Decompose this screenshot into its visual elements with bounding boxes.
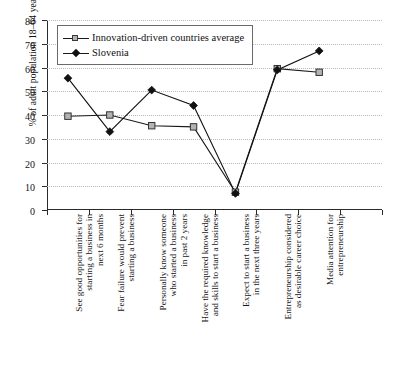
plot-area: 01020304050607080 Innovation-driven coun…	[47, 20, 382, 210]
legend-item-slovenia: Slovenia	[63, 45, 244, 60]
x-axis-tick	[382, 210, 383, 215]
y-axis-tick-label: 70	[25, 39, 35, 50]
data-point-square	[316, 69, 322, 75]
y-axis-tick-label: 40	[25, 111, 35, 122]
legend: Innovation-driven countries average Slov…	[57, 25, 253, 65]
series-line-slovenia	[68, 51, 319, 194]
x-axis-category-label: Have the required knowledgeand skills to…	[200, 214, 214, 364]
x-axis-category-labels: See good opportunities forstarting a bus…	[47, 214, 382, 379]
y-axis-tick-label: 30	[25, 134, 35, 145]
data-point-square	[107, 112, 113, 118]
legend-label: Innovation-driven countries average	[92, 32, 244, 43]
x-axis-category-label: Media attention forentrepreneurship	[325, 214, 339, 364]
data-point-square	[65, 113, 71, 119]
x-axis-category-label: Fear failure would preventstarting a bus…	[116, 214, 130, 364]
data-point-diamond	[190, 102, 198, 110]
x-axis-category-label: See good opportunities forstarting a bus…	[74, 214, 88, 364]
filled-diamond-marker-icon	[63, 47, 89, 59]
y-axis-tick-label: 50	[25, 87, 35, 98]
data-point-square	[190, 124, 196, 130]
x-axis-category-label: Expect to start a businessin the next th…	[241, 214, 255, 364]
legend-item-innovation-driven: Innovation-driven countries average	[63, 30, 244, 45]
y-axis-tick-label: 0	[30, 206, 35, 217]
y-axis-tick-label: 80	[25, 16, 35, 27]
y-axis-tick-label: 20	[25, 158, 35, 169]
x-axis-category-label: Entrepreneurship consideredas desirable …	[283, 214, 297, 364]
open-square-marker-icon	[63, 32, 89, 44]
line-chart: % of adult population 18–64 years 010203…	[0, 0, 395, 381]
x-axis-category-label: Personally know someonewho started a bus…	[158, 214, 172, 364]
data-point-diamond	[315, 47, 323, 55]
legend-label: Slovenia	[92, 47, 129, 58]
data-point-square	[148, 122, 154, 128]
y-axis-tick-label: 10	[25, 182, 35, 193]
y-axis-tick-label: 60	[25, 63, 35, 74]
